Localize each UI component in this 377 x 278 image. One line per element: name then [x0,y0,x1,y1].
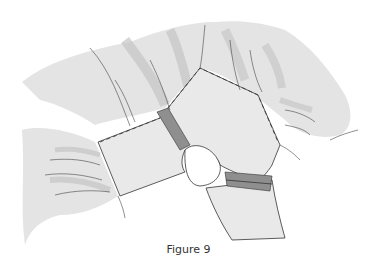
figure-illustration: Figure 9 [0,0,377,278]
gathered-sleeve-illustration [0,0,377,278]
figure-caption: Figure 9 [0,243,377,256]
